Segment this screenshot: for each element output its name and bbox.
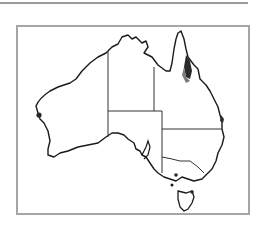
distribution-area-vic (174, 173, 178, 177)
australia-map (18, 27, 248, 213)
top-divider (0, 2, 248, 4)
king-island (171, 184, 174, 187)
mainland-outline (36, 31, 224, 181)
distribution-area-sw-wa (36, 112, 41, 117)
distribution-area-tas (190, 190, 194, 194)
map-frame: Australia distribution map (16, 25, 250, 215)
tasmania-outline (178, 191, 194, 211)
